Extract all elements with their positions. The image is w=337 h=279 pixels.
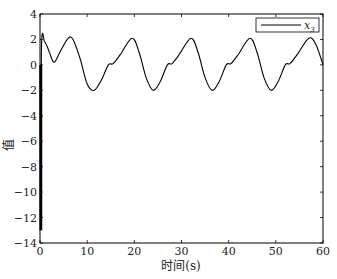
series-x3 (40, 33, 323, 230)
line-chart: 0102030405060420−2−4−6−8−10−12−14 x3 时间(… (0, 0, 337, 279)
x-tick-label: 0 (37, 245, 44, 258)
x-tick-label: 60 (316, 245, 330, 258)
y-tick-label: −12 (14, 212, 37, 225)
axes-frame (40, 14, 323, 243)
x-tick-label: 10 (80, 245, 94, 258)
y-tick-label: 4 (30, 8, 37, 21)
x-tick-label: 30 (175, 245, 189, 258)
y-tick-label: −2 (21, 84, 37, 97)
y-tick-label: −8 (21, 161, 37, 174)
y-tick-label: −4 (21, 110, 37, 123)
axis-ticks: 0102030405060420−2−4−6−8−10−12−14 (14, 8, 330, 258)
y-tick-label: −6 (21, 135, 37, 148)
y-tick-label: −10 (14, 186, 37, 199)
y-tick-label: 0 (30, 59, 37, 72)
x-tick-label: 50 (269, 245, 283, 258)
x-tick-label: 40 (222, 245, 236, 258)
x-tick-label: 20 (127, 245, 141, 258)
y-tick-label: 2 (30, 33, 37, 46)
series-line (40, 33, 323, 230)
plot-area (40, 14, 323, 243)
y-tick-label: −14 (14, 237, 37, 250)
x-axis-label: 时间(s) (161, 259, 201, 273)
y-axis-label: 值 (1, 139, 16, 151)
legend: x3 (256, 18, 319, 34)
